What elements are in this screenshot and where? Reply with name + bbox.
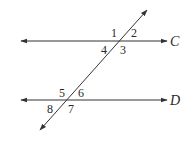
- angle-label-2: 2: [131, 26, 137, 40]
- parallel-lines-diagram: C D 1 2 3 4 5 6 7 8: [0, 0, 192, 142]
- angle-label-5: 5: [59, 86, 65, 100]
- angle-label-6: 6: [78, 86, 84, 100]
- line-d-label: D: [169, 93, 180, 108]
- line-c-label: C: [170, 34, 180, 49]
- angle-label-1: 1: [111, 26, 117, 40]
- angle-label-4: 4: [101, 43, 107, 57]
- angle-label-7: 7: [68, 102, 74, 116]
- angle-label-3: 3: [120, 43, 126, 57]
- angle-label-8: 8: [47, 102, 53, 116]
